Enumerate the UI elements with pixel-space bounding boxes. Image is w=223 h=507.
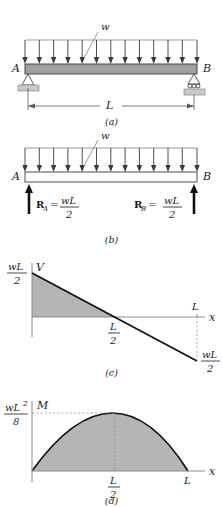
shear-end-label-L: L [191,301,199,312]
caption-d: (d) [0,495,223,506]
distributed-load-arrows-fbd [22,148,199,172]
reaction-a-denominator: 2 [65,209,72,220]
load-leader-line [84,32,98,58]
reaction-b-numerator: wL [164,195,180,206]
load-leader-line-fbd [84,140,98,166]
reaction-label-a: R A = wL 2 [36,195,79,220]
reaction-b-equals: = [148,199,156,210]
moment-peak-denominator: 8 [13,416,19,427]
shear-peak-denominator: 2 [13,275,20,286]
shear-mid-denominator: 2 [109,335,116,346]
roller-support-b [184,74,205,95]
shear-axis-label-x: x [209,311,216,324]
reaction-b-subscript: B [140,205,146,213]
load-label-w-fbd: w [101,130,110,141]
beam-body-fbd [25,172,197,182]
panel-loaded-beam: w A B [0,0,223,130]
caption-b: (b) [0,234,223,245]
reaction-arrow-a [25,184,33,214]
caption-a: (a) [0,116,223,127]
pin-support-a [18,74,39,91]
moment-peak-exponent: 2 [22,400,28,408]
beam-body [25,64,197,74]
shear-peak-label: wL 2 [7,261,27,286]
reaction-b-denominator: 2 [168,209,175,220]
panel-free-body-diagram: w A B R A = wL 2 [0,130,223,255]
shear-min-numerator: wL [202,349,218,360]
support-label-a: A [11,62,20,75]
moment-mid-numerator: L [109,475,117,486]
beam-diagram-figure: w A B [0,0,223,507]
panel-shear-diagram: V x wL 2 L 2 L wL 2 (c) [0,255,223,383]
reaction-label-b: R B = wL 2 [134,195,182,220]
moment-axis-label-x: x [209,465,216,478]
shear-mid-label: L 2 [108,321,120,346]
support-label-b: B [202,62,211,75]
support-label-b-fbd: B [202,170,211,183]
span-dimension: L [28,99,194,113]
caption-c: (c) [0,367,223,378]
shear-mid-numerator: L [109,321,117,332]
support-label-a-fbd: A [11,170,20,183]
reaction-a-equals: = [50,199,58,210]
panel-moment-diagram: M x wL 2 8 L 2 L (d) [0,383,223,507]
span-label-L: L [105,99,113,112]
moment-peak-label: wL 2 8 [4,400,28,427]
reaction-a-numerator: wL [61,195,77,206]
distributed-load-arrows [22,40,199,64]
moment-peak-numerator: wL [5,402,21,413]
load-label-w: w [101,21,110,32]
moment-end-label-L: L [183,475,191,486]
reaction-a-subscript: A [42,205,48,213]
shear-axis-label-v: V [36,261,45,274]
moment-axis-label-m: M [36,399,49,412]
reaction-arrow-b [190,184,198,214]
shear-peak-numerator: wL [8,261,24,272]
